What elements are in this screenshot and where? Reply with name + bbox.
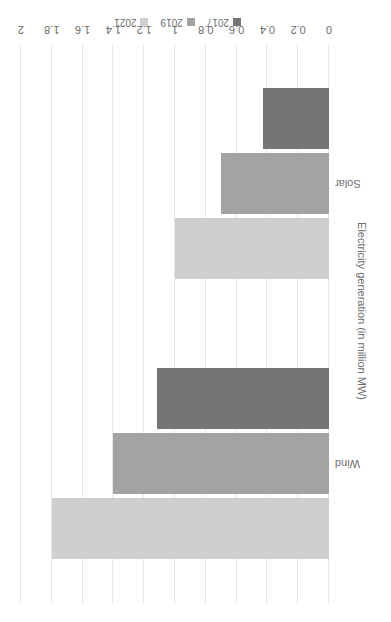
- legend-item[interactable]: 2017: [207, 17, 241, 28]
- bar: [157, 369, 329, 430]
- bar: [52, 499, 329, 560]
- legend-label: 2017: [207, 17, 229, 28]
- legend-swatch-icon: [233, 19, 241, 27]
- value-axis-title: Electricity generation (in million MW): [353, 0, 371, 622]
- legend-item[interactable]: 2019: [161, 17, 195, 28]
- bar: [113, 434, 329, 495]
- gridline: [20, 44, 21, 604]
- value-axis-tick-label: 1.6: [75, 24, 90, 36]
- value-axis-tick-label: 1.8: [44, 24, 59, 36]
- legend-item[interactable]: 2021: [114, 17, 148, 28]
- value-axis-tick-label: 0.2: [291, 24, 306, 36]
- legend-swatch-icon: [141, 19, 149, 27]
- value-axis-tick-label: 0: [326, 24, 332, 36]
- bar: [263, 89, 329, 150]
- bar-chart: 00.20.40.60.811.21.41.61.82 WindSolar El…: [0, 0, 391, 622]
- bar: [175, 219, 329, 280]
- value-axis-tick-label: 0.4: [260, 24, 275, 36]
- legend-label: 2019: [161, 17, 183, 28]
- chart-legend: 201720192021: [114, 17, 241, 28]
- chart-figure: 00.20.40.60.811.21.41.61.82 WindSolar El…: [0, 0, 391, 622]
- bar: [221, 154, 329, 215]
- legend-swatch-icon: [187, 19, 195, 27]
- value-axis-tick-label: 2: [18, 24, 24, 36]
- legend-label: 2021: [114, 17, 136, 28]
